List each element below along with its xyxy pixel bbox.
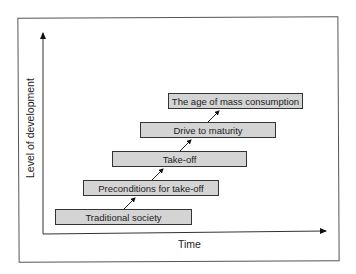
stage-arrow-1	[124, 198, 135, 209]
stage-traditional-society: Traditional society	[55, 209, 192, 225]
y-axis-label: Level of development	[24, 78, 36, 178]
stage-take-off: Take-off	[112, 151, 247, 167]
stage-arrow-2	[152, 169, 163, 180]
stage-preconditions: Preconditions for take-off	[83, 180, 219, 196]
stage-mass-consumption: The age of mass consumption	[168, 93, 303, 109]
x-axis-arrow	[43, 231, 326, 234]
stage-drive-to-maturity: Drive to maturity	[140, 122, 276, 138]
stage-arrow-4	[208, 111, 219, 122]
x-axis-label: Time	[178, 238, 201, 250]
stage-arrow-3	[180, 140, 191, 151]
